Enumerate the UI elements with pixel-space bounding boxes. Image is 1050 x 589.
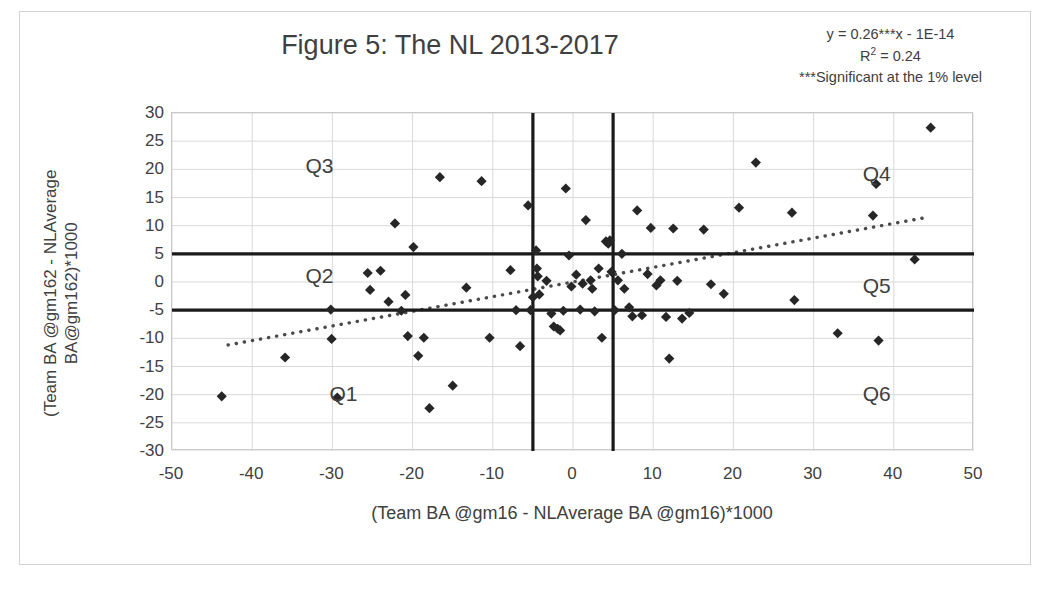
data-point	[403, 331, 413, 341]
y-axis-title-line-2: BA@gm162)*1000	[61, 128, 82, 458]
y-tick-label: 20	[126, 160, 164, 177]
y-tick-label: -10	[126, 329, 164, 346]
y-tick-label: -20	[126, 386, 164, 403]
x-tick-label: 20	[702, 465, 762, 482]
x-tick-label: -40	[221, 465, 281, 482]
data-point	[668, 223, 678, 233]
data-point	[326, 334, 336, 344]
x-tick-label: 40	[863, 465, 923, 482]
data-point	[581, 215, 591, 225]
data-point	[706, 279, 716, 289]
x-tick-label: -10	[462, 465, 522, 482]
r-squared-number: = 0.24	[876, 48, 921, 64]
data-point	[561, 183, 571, 193]
quadrant-label-q6: Q6	[863, 383, 891, 404]
data-point	[619, 284, 629, 294]
r-squared-value: R2 = 0.24	[748, 45, 1033, 67]
x-tick-label: 0	[542, 465, 602, 482]
data-point	[787, 208, 797, 218]
x-tick-label: 30	[783, 465, 843, 482]
y-tick-label: -25	[126, 414, 164, 431]
y-axis-ticks: 302520151050-5-10-15-20-25-30	[118, 112, 164, 450]
data-point	[677, 314, 687, 324]
data-point	[435, 172, 445, 182]
data-point	[632, 205, 642, 215]
significance-note: ***Significant at the 1% level	[748, 67, 1033, 88]
quadrant-label-q1: Q1	[329, 383, 357, 404]
figure-container: Figure 5: The NL 2013-2017 y = 0.26***x …	[0, 0, 1050, 589]
data-point	[511, 305, 521, 315]
data-point	[910, 254, 920, 264]
scatter-plot-svg	[172, 113, 974, 451]
plot-area	[171, 112, 973, 450]
data-point	[833, 328, 843, 338]
data-point	[627, 311, 637, 321]
x-axis-ticks: -50-40-30-20-1001020304050	[171, 462, 973, 490]
data-point	[789, 295, 799, 305]
data-point	[413, 351, 423, 361]
data-point	[558, 306, 568, 316]
data-point	[610, 305, 620, 315]
data-point	[597, 333, 607, 343]
y-axis-title: (Team BA @gm162 - NLAverage BA@gm162)*10…	[40, 128, 83, 458]
data-point	[400, 290, 410, 300]
y-tick-label: 15	[126, 189, 164, 206]
data-point	[365, 285, 375, 295]
data-point	[646, 223, 656, 233]
y-tick-label: 30	[126, 104, 164, 121]
data-point	[661, 312, 671, 322]
data-point	[217, 391, 227, 401]
data-point	[280, 352, 290, 362]
data-point	[873, 335, 883, 345]
y-tick-label: -30	[126, 442, 164, 459]
data-point	[617, 249, 627, 259]
data-point	[587, 284, 597, 294]
data-point	[505, 265, 515, 275]
quadrant-label-q5: Q5	[863, 275, 891, 296]
regression-equation: y = 0.26***x - 1E-14	[748, 24, 1033, 45]
data-point	[594, 263, 604, 273]
data-point	[476, 176, 486, 186]
y-tick-label: 5	[126, 245, 164, 262]
x-tick-label: -20	[382, 465, 442, 482]
x-tick-label: 50	[943, 465, 1003, 482]
data-point	[326, 305, 336, 315]
data-point	[642, 269, 652, 279]
data-point	[672, 276, 682, 286]
y-tick-label: -15	[126, 358, 164, 375]
quadrant-label-q2: Q2	[305, 265, 333, 286]
quadrant-label-q4: Q4	[863, 163, 891, 184]
data-point	[751, 157, 761, 167]
chart-title: Figure 5: The NL 2013-2017	[190, 30, 710, 61]
data-point	[541, 276, 551, 286]
x-tick-label: -50	[141, 465, 201, 482]
data-point	[424, 403, 434, 413]
x-axis-title: (Team BA @gm16 - NLAverage BA @gm16)*100…	[171, 503, 973, 524]
data-point	[719, 289, 729, 299]
data-point	[664, 354, 674, 364]
y-tick-label: 10	[126, 217, 164, 234]
data-point	[734, 203, 744, 213]
data-point	[408, 242, 418, 252]
data-point	[515, 341, 525, 351]
data-point	[926, 123, 936, 133]
data-point	[390, 218, 400, 228]
data-point	[419, 333, 429, 343]
r-squared-prefix: R	[860, 48, 870, 64]
data-point	[375, 266, 385, 276]
quadrant-label-q3: Q3	[305, 155, 333, 176]
x-tick-label: 10	[622, 465, 682, 482]
data-point	[363, 268, 373, 278]
data-point	[868, 210, 878, 220]
x-tick-label: -30	[301, 465, 361, 482]
y-tick-label: -5	[126, 301, 164, 318]
data-point	[448, 381, 458, 391]
data-point	[590, 306, 600, 316]
data-point	[383, 297, 393, 307]
y-axis-title-line-1: (Team BA @gm162 - NLAverage	[40, 128, 61, 458]
y-tick-label: 25	[126, 132, 164, 149]
data-point	[575, 305, 585, 315]
data-point	[461, 283, 471, 293]
regression-annotation: y = 0.26***x - 1E-14 R2 = 0.24 ***Signif…	[748, 24, 1033, 88]
y-tick-label: 0	[126, 273, 164, 290]
